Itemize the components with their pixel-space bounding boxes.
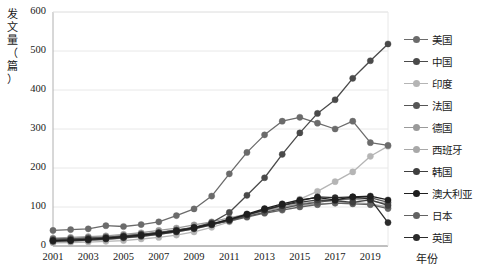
chart-legend: 美国中国印度法国德国西班牙韩国澳大利亚日本英国 — [404, 28, 489, 248]
x-tick-label: 2019 — [350, 251, 390, 262]
legend-item[interactable]: 美国 — [404, 28, 489, 50]
series-marker — [367, 140, 373, 146]
legend-swatch-icon — [404, 232, 428, 242]
series-marker — [385, 220, 391, 226]
legend-item[interactable]: 法国 — [404, 94, 489, 116]
series-marker — [156, 230, 162, 236]
x-tick-label: 2009 — [174, 251, 214, 262]
legend-label: 美国 — [432, 32, 452, 47]
series-marker — [350, 194, 356, 200]
x-tick-label: 2017 — [315, 251, 355, 262]
y-axis-title-char: 文 — [4, 21, 20, 34]
series-marker — [173, 228, 179, 234]
series-marker — [261, 175, 267, 181]
y-tick-label: 0 — [18, 239, 46, 250]
series-marker — [261, 132, 267, 138]
legend-swatch-icon — [404, 210, 428, 220]
series-marker — [332, 197, 338, 203]
legend-label: 澳大利亚 — [432, 186, 472, 201]
series-marker — [367, 58, 373, 64]
series-marker — [244, 192, 250, 198]
series-marker — [279, 118, 285, 124]
x-tick-label: 2007 — [139, 251, 179, 262]
x-tick-label: 2011 — [209, 251, 249, 262]
series-marker — [350, 169, 356, 175]
x-tick-label: 2015 — [280, 251, 320, 262]
x-tick-label: 2003 — [68, 251, 108, 262]
y-tick-label: 200 — [18, 161, 46, 172]
legend-swatch-icon — [404, 144, 428, 154]
x-tick-label: 2005 — [104, 251, 144, 262]
x-tick-label: 2001 — [33, 251, 73, 262]
series-marker — [191, 225, 197, 231]
legend-swatch-icon — [404, 166, 428, 176]
series-marker — [85, 236, 91, 242]
series-marker — [138, 232, 144, 238]
series-marker — [367, 193, 373, 199]
legend-item[interactable]: 日本 — [404, 204, 489, 226]
legend-item[interactable]: 德国 — [404, 116, 489, 138]
series-marker — [385, 142, 391, 148]
legend-item[interactable]: 中国 — [404, 50, 489, 72]
series-marker — [350, 75, 356, 81]
series-marker — [209, 193, 215, 199]
legend-item[interactable]: 韩国 — [404, 160, 489, 182]
series-marker — [85, 226, 91, 232]
legend-item[interactable]: 印度 — [404, 72, 489, 94]
x-axis-title: 年份 — [416, 250, 438, 266]
series-marker — [68, 237, 74, 243]
series-marker — [367, 153, 373, 159]
series-marker — [103, 235, 109, 241]
series-marker — [191, 206, 197, 212]
series-marker — [297, 114, 303, 120]
series-marker — [332, 97, 338, 103]
legend-swatch-icon — [404, 34, 428, 44]
legend-item[interactable]: 澳大利亚 — [404, 182, 489, 204]
legend-item[interactable]: 西班牙 — [404, 138, 489, 160]
series-marker — [50, 227, 56, 233]
series-marker — [209, 221, 215, 227]
series-marker — [156, 219, 162, 225]
series-marker — [297, 130, 303, 136]
series-marker — [138, 221, 144, 227]
series-marker — [385, 197, 391, 203]
series-marker — [314, 120, 320, 126]
legend-swatch-icon — [404, 122, 428, 132]
y-tick-label: 500 — [18, 44, 46, 55]
series-marker — [244, 149, 250, 155]
series-marker — [68, 227, 74, 233]
series-marker — [332, 179, 338, 185]
y-tick-label: 100 — [18, 200, 46, 211]
series-marker — [103, 223, 109, 229]
legend-label: 韩国 — [432, 164, 452, 179]
legend-swatch-icon — [404, 78, 428, 88]
legend-label: 日本 — [432, 208, 452, 223]
legend-swatch-icon — [404, 188, 428, 198]
series-marker — [314, 195, 320, 201]
series-marker — [385, 41, 391, 47]
series-marker — [244, 211, 250, 217]
y-tick-label: 300 — [18, 122, 46, 133]
series-marker — [314, 110, 320, 116]
y-tick-label: 600 — [18, 5, 46, 16]
series-marker — [120, 223, 126, 229]
legend-label: 西班牙 — [432, 142, 462, 157]
legend-label: 印度 — [432, 76, 452, 91]
series-marker — [226, 216, 232, 222]
y-axis-title-char: 篇 — [4, 60, 20, 73]
legend-label: 中国 — [432, 54, 452, 69]
y-tick-label: 400 — [18, 83, 46, 94]
legend-item[interactable]: 英国 — [404, 226, 489, 248]
series-marker — [261, 205, 267, 211]
series-marker — [350, 118, 356, 124]
series-marker — [279, 201, 285, 207]
legend-swatch-icon — [404, 100, 428, 110]
series-marker — [297, 197, 303, 203]
series-marker — [173, 212, 179, 218]
series-marker — [120, 234, 126, 240]
series-marker — [279, 151, 285, 157]
x-tick-label: 2013 — [245, 251, 285, 262]
series-marker — [50, 237, 56, 243]
series-marker — [226, 171, 232, 177]
legend-label: 法国 — [432, 98, 452, 113]
